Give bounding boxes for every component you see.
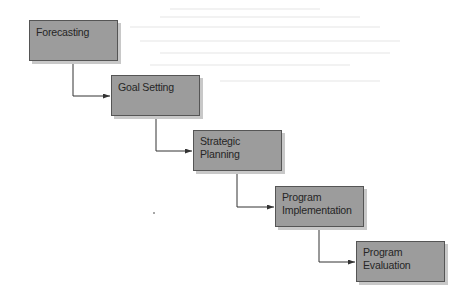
connector-forecasting-to-goal-setting (73, 62, 110, 96)
step-strategic-planning[interactable]: Strategic Planning (193, 130, 282, 171)
step-label-line-1: Program (363, 246, 438, 259)
connector-program-implementation-to-program-evaluation (319, 227, 355, 262)
step-label-line-2: Implementation (282, 204, 357, 217)
bleed-through-texture (130, 26, 380, 28)
step-program-evaluation[interactable]: Program Evaluation (356, 241, 445, 282)
bleed-through-texture (150, 64, 350, 66)
step-label-line-1: Program (282, 191, 357, 204)
step-label: Forecasting (36, 26, 111, 39)
step-program-implementation[interactable]: Program Implementation (275, 186, 364, 227)
bleed-through-texture (160, 16, 360, 18)
step-label-line-2: Planning (200, 148, 275, 161)
bleed-through-texture (140, 40, 400, 42)
scan-speck (153, 212, 155, 214)
step-label: Goal Setting (118, 81, 193, 94)
step-goal-setting[interactable]: Goal Setting (111, 75, 200, 116)
bleed-through-texture (160, 52, 390, 54)
step-label-line-2: Evaluation (363, 259, 438, 272)
step-label-line-1: Strategic (200, 135, 275, 148)
connector-strategic-planning-to-program-implementation (237, 172, 274, 207)
step-forecasting[interactable]: Forecasting (29, 20, 118, 61)
diagram-canvas: Forecasting Goal Setting Strategic Plann… (0, 0, 471, 305)
bleed-through-texture (170, 8, 320, 10)
connector-goal-setting-to-strategic-planning (156, 116, 192, 151)
bleed-through-texture (220, 80, 380, 82)
